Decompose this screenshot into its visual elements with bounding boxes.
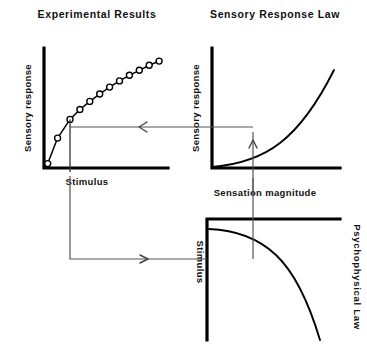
data-point	[117, 78, 123, 84]
panel-psychophysical-law: Stimulus Psychophysical Law	[195, 219, 363, 340]
psychophysics-figure: Experimental Results Sensory Response La…	[0, 0, 367, 352]
psychophysical-curve	[209, 229, 320, 340]
sensory-response-law-title: Sensory Response Law	[210, 8, 340, 20]
data-point	[55, 135, 61, 141]
data-point	[87, 98, 93, 104]
psychophysical-y-axis-label: Stimulus	[195, 241, 206, 284]
connector-stimulus-to-psychophysical	[70, 176, 207, 259]
sensory-law-axes	[212, 48, 340, 168]
sensory-law-curve	[213, 70, 335, 167]
psychophysical-law-title: Psychophysical Law	[352, 224, 363, 330]
data-point	[126, 72, 132, 78]
data-point	[45, 161, 51, 167]
panel-experimental-results: Sensory response Stimulus	[22, 48, 168, 187]
data-point	[97, 91, 103, 97]
data-point	[156, 58, 162, 64]
data-point	[107, 84, 113, 90]
psychophysical-axes	[207, 219, 340, 340]
sensory-law-x-axis-label: Sensation magnitude	[214, 187, 317, 198]
data-point	[146, 62, 152, 68]
experimental-results-title: Experimental Results	[38, 8, 157, 20]
panel-sensory-response-law: Sensory response Sensation magnitude	[190, 48, 340, 198]
sensory-law-y-axis-label: Sensory response	[190, 64, 201, 152]
data-point	[136, 67, 142, 73]
data-point	[77, 107, 83, 113]
experimental-y-axis-label: Sensory response	[22, 64, 33, 152]
experimental-x-axis-label: Stimulus	[66, 176, 109, 187]
experimental-data-line	[48, 61, 159, 164]
